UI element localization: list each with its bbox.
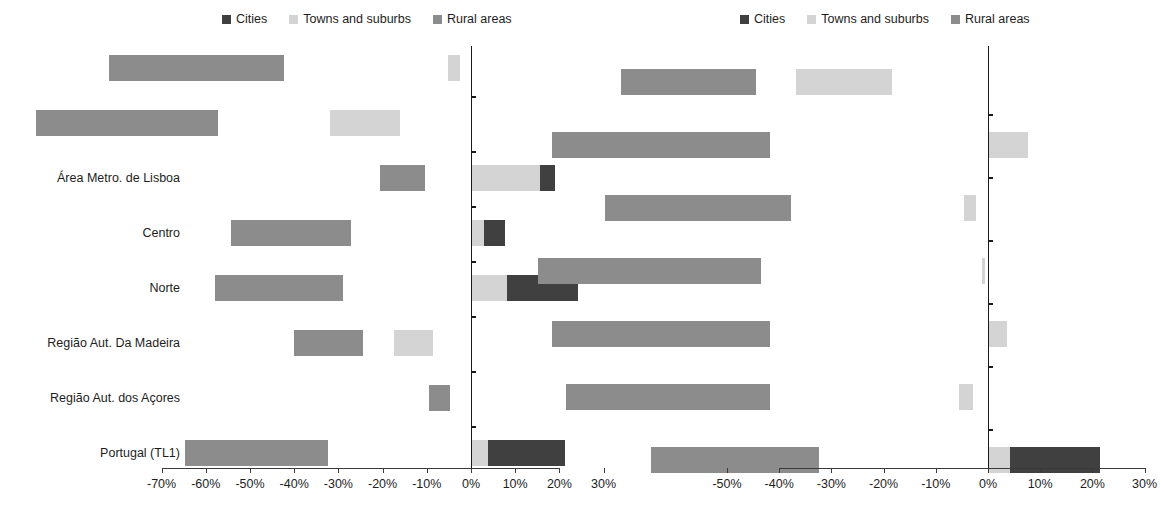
x-axis-tick [162,468,163,473]
bar-segment-towns[interactable] [982,258,985,284]
x-axis-tick [1145,468,1146,473]
bar-segment-rural[interactable] [380,165,426,191]
bar-segment-cities[interactable] [540,165,555,191]
category-label: Norte [149,281,180,295]
x-axis-line [162,468,560,469]
x-axis-tick-label: -20% [368,477,397,491]
legend-entry-cities[interactable]: Cities [222,13,267,26]
bar-segment-towns[interactable] [448,55,459,81]
x-axis-tick-label: 20% [1080,477,1105,491]
legend-entry-towns[interactable]: Towns and suburbs [807,13,929,26]
category-label: Portugal (TL1) [100,446,180,460]
bar-segment-rural[interactable] [621,69,757,95]
category-minor-tick [989,429,993,431]
legend-swatch-rural-icon [951,15,960,24]
x-axis-tick-label: -20% [869,477,898,491]
legend-label: Cities [754,13,785,26]
legend-swatch-cities-icon [740,15,749,24]
x-axis-tick-label: -50% [712,477,741,491]
x-axis-tick-label: -70% [147,477,176,491]
x-axis-tick [1040,468,1041,473]
legend-swatch-towns-icon [289,15,298,24]
x-axis-tick-label: -50% [235,477,264,491]
bar-segment-rural[interactable] [109,55,284,81]
x-axis-tick-label: -60% [191,477,220,491]
legend-label: Rural areas [447,13,512,26]
bar-segment-cities[interactable] [488,440,564,466]
bar-segment-towns[interactable] [964,195,976,221]
chart-panel-right: CitiesTowns and suburbsRural areas Alent… [580,0,1160,511]
legend-entry-rural[interactable]: Rural areas [951,13,1030,26]
bar-segment-towns[interactable] [330,110,401,136]
x-axis-tick [779,468,780,473]
bar-segment-rural[interactable] [185,440,328,466]
x-axis-tick-label: -30% [817,477,846,491]
bar-segment-towns[interactable] [988,321,1007,347]
bar-segment-rural[interactable] [605,195,790,221]
bar-segment-towns[interactable] [988,132,1028,158]
bar-segment-rural[interactable] [36,110,218,136]
legend-swatch-towns-icon [807,15,816,24]
plot-area-left: AlentejoAlgarveÁrea Metro. de LisboaCent… [0,46,580,468]
bar-segment-rural[interactable] [552,321,770,347]
category-label: Região Aut. Da Madeira [47,336,180,350]
category-minor-tick [472,316,476,318]
category-label: Área Metro. de Lisboa [57,171,180,185]
category-minor-tick [472,426,476,428]
x-axis-tick [831,468,832,473]
legend-label: Cities [236,13,267,26]
category-minor-tick [472,371,476,373]
bar-segment-towns[interactable] [471,275,507,301]
bar-segment-rural[interactable] [294,330,363,356]
bar-segment-cities[interactable] [484,220,506,246]
x-axis-tick-label: 0% [979,477,997,491]
category-minor-tick [472,261,476,263]
bar-segment-cities[interactable] [1010,447,1100,473]
x-axis-line [779,468,1145,469]
bar-segment-rural[interactable] [538,258,761,284]
bar-segment-towns[interactable] [471,220,484,246]
x-axis-tick-label: -40% [280,477,309,491]
bar-segment-rural[interactable] [215,275,343,301]
bar-segment-rural[interactable] [231,220,351,246]
category-minor-tick [472,206,476,208]
x-axis-tick-label: -10% [921,477,950,491]
category-minor-tick [472,96,476,98]
legend-entry-towns[interactable]: Towns and suburbs [289,13,411,26]
bar-segment-towns[interactable] [988,447,1010,473]
category-minor-tick [989,240,993,242]
bar-segment-towns[interactable] [394,330,432,356]
category-label: Região Aut. dos Açores [50,391,180,405]
bar-segment-towns[interactable] [471,165,540,191]
bar-segment-rural[interactable] [429,385,450,411]
legend-label: Towns and suburbs [303,13,411,26]
legend-swatch-cities-icon [222,15,231,24]
category-minor-tick [989,177,993,179]
bar-segment-towns[interactable] [796,69,892,95]
legend-entry-rural[interactable]: Rural areas [433,13,512,26]
category-minor-tick [989,303,993,305]
category-minor-tick [989,366,993,368]
bar-rows: Alentejo CentralAlentejo LitoralAlto Ale… [580,46,1160,464]
legend-right: CitiesTowns and suburbsRural areas [740,13,1030,26]
bar-segment-towns[interactable] [471,440,488,466]
x-axis-tick-label: 10% [503,477,528,491]
x-axis-tick-label: -10% [412,477,441,491]
dual-bar-chart-figure: CitiesTowns and suburbsRural areas Alent… [0,0,1160,511]
bar-segment-towns[interactable] [959,384,974,410]
bar-segment-rural[interactable] [552,132,770,158]
zero-axis-line [471,46,472,468]
x-axis-tick-label: 0% [462,477,480,491]
x-axis-tick [727,468,728,473]
legend-swatch-rural-icon [433,15,442,24]
bar-segment-rural[interactable] [651,447,820,473]
x-axis-tick [884,468,885,473]
bar-segment-rural[interactable] [566,384,770,410]
x-axis-tick-label: -30% [324,477,353,491]
legend-entry-cities[interactable]: Cities [740,13,785,26]
x-axis-tick [338,468,339,473]
category-minor-tick [989,114,993,116]
category-label: Centro [142,226,180,240]
legend-label: Rural areas [965,13,1030,26]
x-axis-tick [250,468,251,473]
